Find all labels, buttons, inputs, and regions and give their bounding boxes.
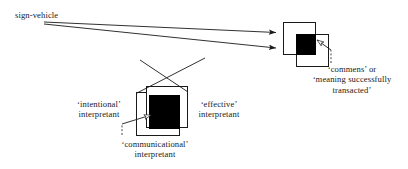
label-effective-line1: ‘effective’ <box>188 99 250 109</box>
right-cluster-shapes <box>284 23 329 67</box>
semiotics-diagram: sign-vehicle ‘intentional’ interpretant … <box>0 0 408 169</box>
label-intentional-interpretant: ‘intentional’ interpretant <box>68 99 130 120</box>
right-black-square <box>296 34 316 55</box>
label-commens: ‘commens’ or ‘meaning successfully trans… <box>298 64 406 95</box>
label-communicational-line2: interpretant <box>92 149 218 159</box>
label-intentional-line1: ‘intentional’ <box>68 99 130 109</box>
label-commens-line1: ‘commens’ or <box>298 64 406 74</box>
label-sign-vehicle: sign-vehicle <box>15 10 58 20</box>
label-effective-interpretant: ‘effective’ interpretant <box>188 99 250 120</box>
label-intentional-line2: interpretant <box>68 109 130 119</box>
left-cluster-shapes <box>137 87 188 136</box>
label-communicational-interpretant: ‘communicational’ interpretant <box>92 139 218 160</box>
label-commens-line2: ‘meaning successfully <box>298 74 406 84</box>
left-black-square <box>149 95 180 129</box>
label-communicational-line1: ‘communicational’ <box>92 139 218 149</box>
label-effective-line2: interpretant <box>188 109 250 119</box>
label-commens-line3: transacted’ <box>298 85 406 95</box>
